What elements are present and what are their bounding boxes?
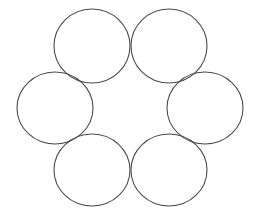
circle-middle-left (17, 72, 93, 144)
circle-bottom-right (131, 134, 207, 206)
circle-middle-right (167, 72, 243, 144)
circle-bottom-left (54, 134, 130, 206)
six-circle-ring-diagram (0, 0, 257, 215)
circle-top-left (54, 9, 130, 83)
circle-top-right (131, 9, 207, 83)
